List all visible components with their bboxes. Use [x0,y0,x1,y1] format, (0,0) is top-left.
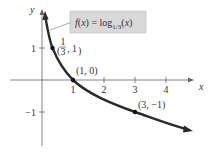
label-three-neg-one: (3, −1) [138,99,165,111]
log-curve [46,18,187,129]
y-axis-label: y [29,4,35,15]
curve-arrow-right-icon [183,126,193,133]
svg-text:): ) [78,45,81,57]
x-tick-2: 2 [102,84,107,95]
point-one-third-one [50,46,54,50]
y-tick-neg1: −1 [25,107,36,118]
callout-pointer [50,22,72,30]
point-one-zero [71,78,75,82]
svg-text:, 1: , 1 [67,43,77,54]
label-one-third-one: ( 1 3 , 1 ) [57,36,81,58]
svg-text:3: 3 [61,46,66,57]
x-tick-3: 3 [133,84,138,95]
x-axis-label: x [198,81,204,92]
log-graph: 1 2 3 4 1 −1 x y ( 1 3 , 1 ) (1, 0) (3, … [0,0,217,152]
x-tick-1: 1 [71,84,76,95]
y-axis-arrow-icon [40,9,45,15]
label-one-zero: (1, 0) [76,65,98,77]
y-tick-1: 1 [31,43,36,54]
x-axis-arrow-icon [188,78,194,83]
point-three-neg-one [133,110,137,114]
x-tick-4: 4 [164,84,169,95]
